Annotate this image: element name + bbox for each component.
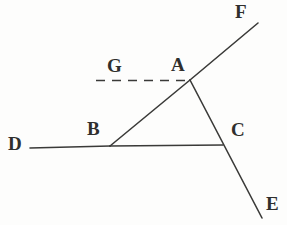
point-label-f: F (235, 2, 247, 21)
point-label-b: B (87, 119, 100, 138)
segment-layer (30, 23, 262, 218)
segment-db (30, 146, 110, 148)
point-label-d: D (8, 134, 22, 153)
point-label-a: A (171, 55, 185, 74)
segment-ae (190, 80, 262, 218)
segment-af (190, 23, 258, 80)
point-label-e: E (266, 194, 279, 213)
figure-canvas (0, 0, 287, 225)
point-label-c: C (231, 120, 245, 139)
segment-bc (110, 145, 223, 146)
segment-ba (110, 80, 190, 146)
point-label-g: G (107, 56, 122, 75)
geometry-figure: G A F B C D E (0, 0, 287, 225)
